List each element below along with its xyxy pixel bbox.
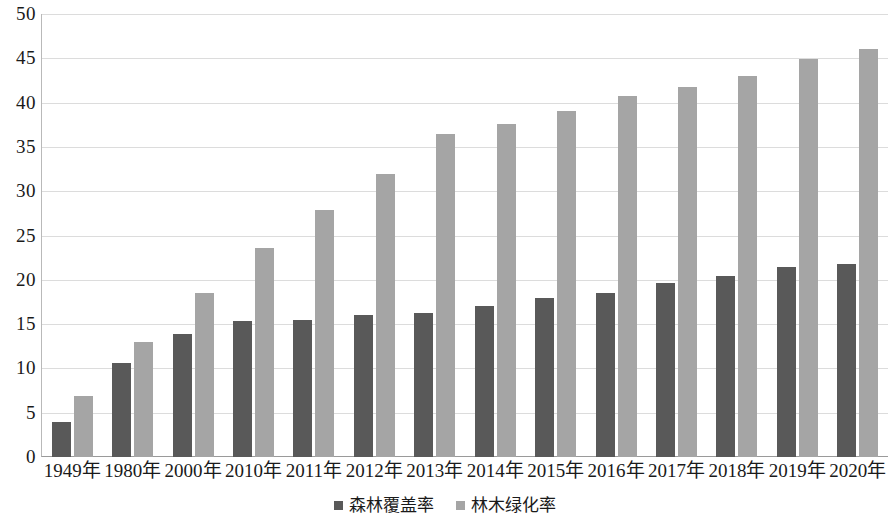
bar	[195, 293, 214, 457]
legend-item[interactable]: 森林覆盖率	[334, 496, 434, 516]
bar	[436, 134, 455, 457]
gridline-0	[42, 457, 888, 458]
bar	[738, 76, 757, 457]
bar-group	[414, 14, 455, 457]
x-axis-tick-label: 2016年	[586, 459, 646, 483]
bar-chart: 50454035302520151050 1949年1980年2000年2010…	[0, 0, 889, 519]
bar	[376, 174, 395, 457]
y-axis-tick-label: 30	[2, 181, 36, 200]
y-axis-tick-label: 35	[2, 137, 36, 156]
legend-swatch-icon	[456, 501, 465, 510]
x-axis-tick-label: 2017年	[646, 459, 706, 483]
legend-label: 林木绿化率	[471, 496, 556, 516]
x-axis-tick-label: 1980年	[102, 459, 162, 483]
x-axis-tick-label: 2015年	[525, 459, 585, 483]
chart-legend: 森林覆盖率林木绿化率	[0, 492, 889, 519]
bars-layer	[42, 14, 888, 457]
bar-group	[173, 14, 214, 457]
bar	[618, 96, 637, 457]
bar	[52, 422, 71, 457]
x-axis-tick-label: 2019年	[767, 459, 827, 483]
y-axis-tick-label: 20	[2, 270, 36, 289]
bar	[557, 111, 576, 457]
bar	[799, 59, 818, 457]
bar	[173, 334, 192, 457]
bar-group	[716, 14, 757, 457]
bar	[414, 313, 433, 457]
bar	[475, 306, 494, 457]
bar	[777, 267, 796, 457]
legend-label: 森林覆盖率	[349, 496, 434, 516]
bar	[233, 321, 252, 457]
bar-group	[596, 14, 637, 457]
y-axis: 50454035302520151050	[0, 14, 36, 457]
bar	[678, 87, 697, 457]
bar-group	[656, 14, 697, 457]
y-axis-tick-label: 5	[2, 403, 36, 422]
bar-group	[354, 14, 395, 457]
bar	[497, 124, 516, 457]
y-axis-tick-label: 15	[2, 314, 36, 333]
bar	[837, 264, 856, 457]
x-axis-tick-label: 2012年	[344, 459, 404, 483]
bar	[596, 293, 615, 457]
y-axis-tick-label: 25	[2, 226, 36, 245]
bar	[255, 248, 274, 457]
bar	[315, 210, 334, 457]
y-axis-tick-label: 50	[2, 4, 36, 23]
bar	[859, 49, 878, 457]
bar	[354, 315, 373, 457]
legend-item[interactable]: 林木绿化率	[456, 496, 556, 516]
x-axis-tick-label: 2013年	[405, 459, 465, 483]
bar-group	[52, 14, 93, 457]
x-axis-tick-label: 2018年	[707, 459, 767, 483]
y-axis-tick-label: 45	[2, 48, 36, 67]
x-axis: 1949年1980年2000年2010年2011年2012年2013年2014年…	[42, 459, 888, 487]
bar	[535, 298, 554, 457]
x-axis-tick-label: 2014年	[465, 459, 525, 483]
bar	[134, 342, 153, 457]
bar	[293, 320, 312, 457]
bar-group	[837, 14, 878, 457]
x-axis-tick-label: 2000年	[163, 459, 223, 483]
y-axis-tick-label: 40	[2, 93, 36, 112]
x-axis-tick-label: 2011年	[284, 459, 344, 483]
bar	[716, 276, 735, 457]
bar-group	[535, 14, 576, 457]
bar	[112, 363, 131, 457]
x-axis-tick-label: 2010年	[223, 459, 283, 483]
bar	[656, 283, 675, 457]
bar-group	[112, 14, 153, 457]
bar	[74, 396, 93, 457]
legend-swatch-icon	[334, 501, 343, 510]
x-axis-tick-label: 2020年	[828, 459, 888, 483]
bar-group	[293, 14, 334, 457]
bar-group	[777, 14, 818, 457]
x-axis-tick-label: 1949年	[42, 459, 102, 483]
bar-group	[475, 14, 516, 457]
y-axis-tick-label: 10	[2, 358, 36, 377]
bar-group	[233, 14, 274, 457]
y-axis-tick-label: 0	[2, 447, 36, 466]
